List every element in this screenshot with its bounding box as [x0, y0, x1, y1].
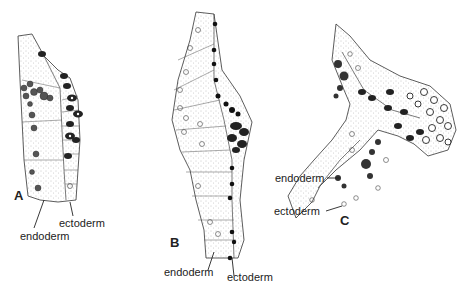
panel-c-endoderm-label: endoderm — [275, 172, 325, 184]
panel-c-letter: C — [340, 213, 349, 228]
histology-figure: A endoderm ectoderm B endoderm ectoderm … — [0, 0, 469, 290]
panel-c-ectoderm-label: ectoderm — [274, 205, 320, 217]
panel-c-drawing — [288, 24, 456, 218]
panel-b-ectoderm-label: ectoderm — [227, 271, 273, 283]
panel-b-endoderm-label: endoderm — [164, 266, 214, 278]
tissue-drawings — [0, 0, 469, 290]
panel-a-drawing — [18, 34, 83, 228]
panel-a-endoderm-label: endoderm — [20, 230, 70, 242]
panel-a-ectoderm-label: ectoderm — [59, 217, 105, 229]
panel-b-drawing — [172, 12, 252, 276]
panel-b-letter: B — [170, 235, 179, 250]
panel-a-letter: A — [14, 188, 23, 203]
